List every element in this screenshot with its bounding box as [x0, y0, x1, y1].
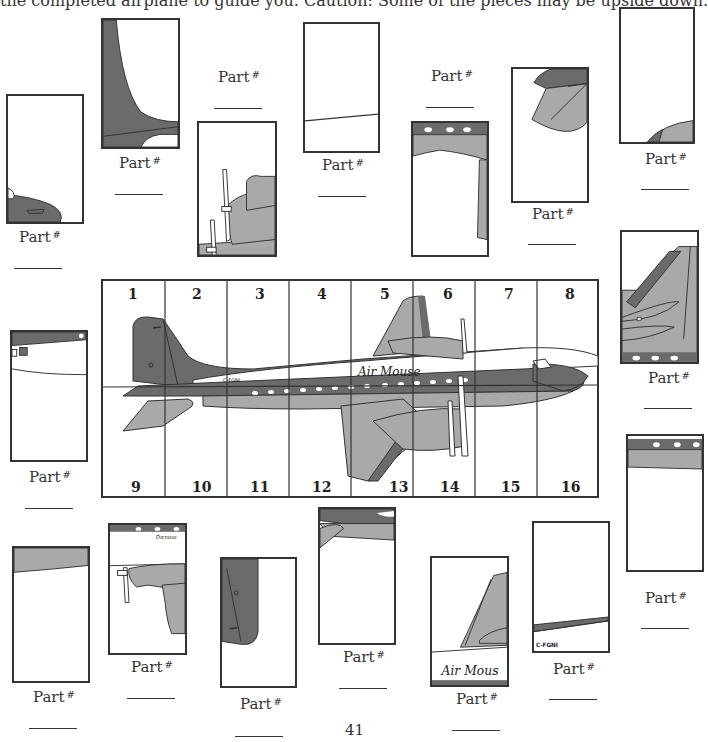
inverted-tail-fragment-icon — [222, 559, 295, 686]
windows-fragment-icon — [413, 123, 487, 255]
engine-fragment-icon — [199, 123, 275, 255]
grid-number: 16 — [561, 479, 580, 495]
grid-number: 12 — [312, 479, 331, 495]
fuselage-line-fragment-icon — [305, 24, 378, 151]
grid-number: 5 — [380, 286, 390, 302]
part-label: Part# — [645, 589, 687, 607]
grid-number: 6 — [443, 286, 453, 302]
answer-blank[interactable] — [549, 699, 597, 700]
puzzle-piece[interactable] — [12, 546, 90, 683]
wing-root-fragment-icon — [622, 232, 697, 362]
answer-blank[interactable] — [426, 107, 474, 108]
answer-blank[interactable] — [528, 244, 576, 245]
part-label: Part# — [645, 150, 687, 168]
puzzle-piece[interactable] — [6, 94, 84, 224]
curve-fragment-icon — [621, 9, 693, 142]
part-label: Part# — [218, 68, 260, 86]
grid-number: 13 — [389, 479, 408, 495]
svg-text:C-FGNI: C-FGNI — [536, 642, 558, 648]
puzzle-piece[interactable]: Ծɑnoɯ — [108, 523, 187, 655]
grid-number: 2 — [192, 286, 202, 302]
puzzle-piece[interactable] — [197, 121, 277, 257]
airline-name-fragment-icon: Air Mous — [432, 558, 507, 685]
grid-number: 10 — [192, 479, 211, 495]
part-label: Part# — [456, 690, 498, 708]
puzzle-piece[interactable] — [10, 330, 88, 462]
answer-blank[interactable] — [452, 730, 500, 731]
stabilizer-fragment-icon — [320, 509, 394, 643]
part-label: Part# — [322, 156, 364, 174]
part-label: Part# — [648, 369, 690, 387]
svg-text:Air Mous: Air Mous — [441, 663, 499, 678]
puzzle-piece[interactable] — [101, 18, 180, 149]
puzzle-piece[interactable]: Air Mous — [430, 556, 509, 687]
instructions-text: the completed airplane to guide you. Cau… — [0, 0, 707, 10]
nose-fragment-icon — [8, 96, 82, 222]
part-label: Part# — [119, 154, 161, 172]
page-number: 41 — [345, 721, 364, 739]
belly-fragment-icon — [14, 548, 88, 681]
part-label: Part# — [431, 67, 473, 85]
grid-number: 15 — [501, 479, 520, 495]
svg-text:Ծɑnoɯ: Ծɑnoɯ — [156, 534, 178, 540]
part-label: Part# — [29, 468, 71, 486]
grid-number: 4 — [317, 286, 327, 302]
grid-number: 1 — [128, 286, 138, 302]
answer-blank[interactable] — [14, 268, 62, 269]
puzzle-piece[interactable] — [411, 121, 489, 257]
inverted-engine-fragment-icon: Ծɑnoɯ — [110, 525, 185, 653]
tail-fragment-icon — [103, 20, 178, 147]
part-label: Part# — [532, 205, 574, 223]
grid-number: 7 — [504, 286, 514, 302]
answer-blank[interactable] — [318, 196, 366, 197]
answer-blank[interactable] — [641, 189, 689, 190]
part-label: Part# — [19, 228, 61, 246]
grid-number: 14 — [440, 479, 459, 495]
part-label: Part# — [33, 688, 75, 706]
answer-blank[interactable] — [29, 728, 77, 729]
part-label: Part# — [240, 695, 282, 713]
cockpit-fragment-icon — [12, 332, 86, 460]
answer-blank[interactable] — [339, 688, 387, 689]
airplane-illustration: C-FGNI Air Mouse — [103, 281, 598, 497]
part-label: Part# — [131, 658, 173, 676]
answer-blank[interactable] — [641, 628, 689, 629]
grid-number: 11 — [250, 479, 269, 495]
part-label: Part# — [553, 660, 595, 678]
answer-blank[interactable] — [644, 408, 692, 409]
grid-number: 3 — [255, 286, 265, 302]
completed-airplane-grid: C-FGNI Air Mouse 1 2 3 4 5 6 7 8 9 10 11… — [101, 279, 599, 498]
answer-blank[interactable] — [214, 108, 262, 109]
puzzle-piece[interactable]: C-FGNI — [532, 521, 610, 653]
puzzle-piece[interactable] — [303, 22, 380, 153]
puzzle-piece[interactable] — [619, 7, 695, 144]
answer-blank[interactable] — [127, 698, 175, 699]
answer-blank[interactable] — [25, 508, 73, 509]
puzzle-piece[interactable] — [620, 230, 699, 364]
registration-fragment-icon: C-FGNI — [534, 523, 608, 651]
puzzle-piece[interactable] — [220, 557, 297, 688]
puzzle-piece[interactable] — [511, 67, 589, 203]
part-label: Part# — [343, 648, 385, 666]
wingtip-fragment-icon — [513, 69, 587, 201]
svg-text:Air Mouse: Air Mouse — [357, 365, 421, 379]
grid-number: 9 — [131, 479, 141, 495]
grid-number: 8 — [565, 286, 575, 302]
svg-text:C-FGNI: C-FGNI — [223, 377, 240, 383]
answer-blank[interactable] — [115, 194, 163, 195]
puzzle-piece[interactable] — [626, 434, 704, 572]
window-strip-fragment-icon — [628, 436, 702, 570]
puzzle-piece[interactable] — [318, 507, 396, 645]
answer-blank[interactable] — [235, 736, 283, 737]
